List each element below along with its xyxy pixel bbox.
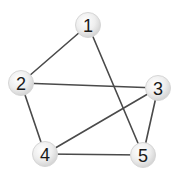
node-label: 4 xyxy=(40,145,50,165)
edge-1-2 xyxy=(21,25,88,83)
node-3: 3 xyxy=(146,76,171,101)
node-1: 1 xyxy=(76,13,101,38)
node-label: 2 xyxy=(16,74,26,94)
node-4: 4 xyxy=(33,142,58,167)
node-label: 5 xyxy=(138,146,148,166)
nodes-layer: 12345 xyxy=(9,13,171,168)
node-label: 3 xyxy=(153,79,163,99)
graph-diagram: 12345 xyxy=(0,0,181,176)
node-label: 1 xyxy=(83,16,93,36)
edge-4-5 xyxy=(45,154,143,155)
edge-2-3 xyxy=(21,83,158,88)
edge-1-5 xyxy=(88,25,143,155)
node-2: 2 xyxy=(9,71,34,96)
node-5: 5 xyxy=(131,143,156,168)
edges-layer xyxy=(21,25,158,155)
